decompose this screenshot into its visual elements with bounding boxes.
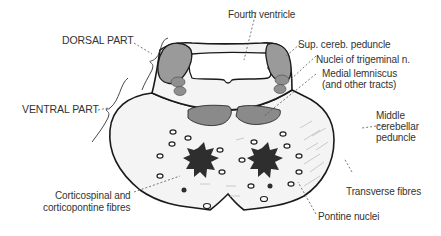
label-medial-lemniscus-tracts: (and other tracts) (322, 79, 396, 90)
label-dorsal-part: DORSAL PART (62, 35, 134, 46)
label-transverse-fibres: Transverse fibres (346, 186, 421, 197)
label-middle-cerebellar-1: Middle (376, 110, 405, 121)
fourth-ventricle-shape (189, 52, 271, 83)
label-pontine-nuclei: Pontine nuclei (318, 211, 379, 222)
label-corticopontine: corticopontine fibres (43, 202, 130, 213)
label-middle-cerebellar-2: cerebellar (376, 121, 419, 132)
label-corticospinal: Corticospinal and (55, 190, 131, 201)
corticospinal-dot-right (268, 184, 273, 189)
label-fourth-ventricle: Fourth ventricle (228, 9, 295, 20)
corticospinal-dot-left (182, 188, 187, 193)
label-nuclei-trigeminal: Nuclei of trigeminal n. (316, 54, 410, 65)
label-medial-lemniscus: Medial lemniscus (322, 68, 397, 79)
label-sup-cereb-peduncle: Sup. cereb. peduncle (298, 39, 391, 50)
label-ventral-part: VENTRAL PART (22, 104, 99, 115)
medial-lemniscus-left (188, 105, 231, 125)
label-middle-cerebellar-3: peduncle (376, 132, 416, 143)
